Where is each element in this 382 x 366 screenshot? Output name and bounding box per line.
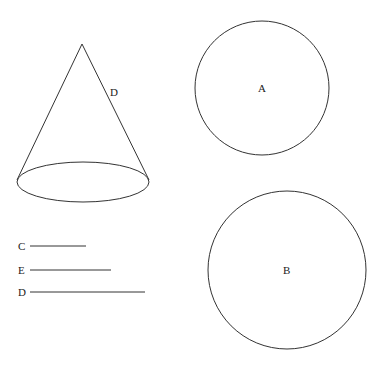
cone-right-slant xyxy=(82,44,149,180)
cone-left-slant xyxy=(17,44,82,180)
circle-b-label: B xyxy=(283,265,290,276)
segment-d-label: D xyxy=(18,287,26,298)
diagram-canvas: D A B C E D xyxy=(0,0,382,366)
cone-base-ellipse xyxy=(17,162,149,202)
cone-slant-label: D xyxy=(110,87,118,98)
circle-a-label: A xyxy=(258,83,266,94)
cone xyxy=(17,44,149,202)
segment-c-label: C xyxy=(18,241,25,252)
segment-e-label: E xyxy=(18,265,25,276)
diagram-graphics xyxy=(0,0,382,366)
